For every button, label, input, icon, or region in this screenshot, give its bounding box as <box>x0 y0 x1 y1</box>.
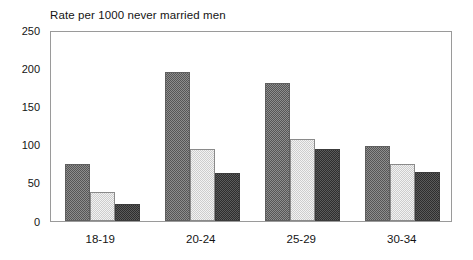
bar[interactable] <box>390 164 415 221</box>
y-axis-tick-label: 100 <box>22 140 40 151</box>
bar-group <box>51 32 151 221</box>
bar[interactable] <box>290 139 315 221</box>
y-axis-tick-label: 50 <box>28 178 40 189</box>
bar-group <box>251 32 351 221</box>
bar[interactable] <box>365 146 390 221</box>
y-axis-tick-label: 150 <box>22 102 40 113</box>
x-axis-tick-label: 18-19 <box>50 232 151 250</box>
bar[interactable] <box>190 149 215 221</box>
x-axis: 18-1920-2425-2930-34 <box>50 232 452 250</box>
bars-layer <box>51 32 451 221</box>
y-axis-tick-label: 250 <box>22 26 40 37</box>
chart-title: Rate per 1000 never married men <box>50 9 226 21</box>
y-axis: 250200150100500 <box>0 31 46 222</box>
y-axis-tick-label: 200 <box>22 64 40 75</box>
bar[interactable] <box>415 172 440 221</box>
x-axis-tick-label: 30-34 <box>352 232 453 250</box>
bar[interactable] <box>65 164 90 221</box>
y-axis-tick-label: 0 <box>34 217 40 228</box>
x-axis-tick-label: 25-29 <box>251 232 352 250</box>
chart-figure: Rate per 1000 never married men 25020015… <box>0 0 473 260</box>
bar[interactable] <box>315 149 340 221</box>
bar-group <box>351 32 451 221</box>
bar-group <box>151 32 251 221</box>
bar[interactable] <box>265 83 290 221</box>
bar[interactable] <box>115 204 140 221</box>
x-axis-tick-label: 20-24 <box>151 232 252 250</box>
bar[interactable] <box>165 72 190 221</box>
bar[interactable] <box>215 173 240 221</box>
bar[interactable] <box>90 192 115 221</box>
